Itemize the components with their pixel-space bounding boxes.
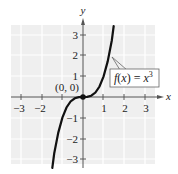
x-tick-label: 1 [101,102,107,114]
y-tick-label: −3 [66,153,78,165]
y-tick-label: −2 [66,133,78,145]
x-tick-label: −3 [13,102,25,114]
y-axis-arrow-icon [81,18,85,25]
y-tick-label: 3 [73,29,79,41]
x-axis-label: x [165,90,171,102]
x-tick-label: 3 [143,102,149,114]
cubic-function-graph: x −3 −2 1 2 3 y 3 2 1 −1 −2 [0,0,178,174]
origin-point-label: (0, 0) [55,81,79,94]
y-axis-label: y [80,4,86,16]
function-label: f(x) = x3 [114,70,153,85]
y-tick-label: 2 [73,49,79,61]
y-tick-label: −1 [66,112,78,124]
x-axis-arrow-icon [157,95,164,99]
x-tick-label: −2 [34,102,46,114]
origin-point-marker [80,94,86,100]
x-tick-label: 2 [122,102,128,114]
